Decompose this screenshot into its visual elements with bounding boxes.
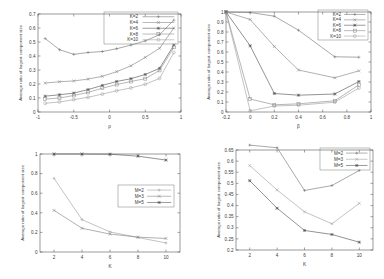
- chart-panel-top-left: -1-0.500.5100.10.20.30.40.50.60.7ρAverag…: [0, 0, 192, 139]
- y-tick-label: 0: [35, 250, 38, 255]
- chart-bottom-right: 2468100.20.250.30.350.40.450.50.550.60.6…: [192, 140, 384, 279]
- x-tick-label: 0: [108, 115, 111, 120]
- legend-label: K=2: [130, 14, 139, 19]
- y-tick-label: 0.45: [225, 192, 234, 197]
- legend-label: M=3: [135, 194, 145, 199]
- chart-top-right: -0.200.20.40.60.8100.10.20.30.40.50.60.7…: [192, 0, 384, 140]
- x-tick-label: 0: [249, 115, 252, 120]
- y-tick-label: 0.8: [31, 171, 38, 176]
- x-tick-label: 1: [180, 115, 183, 120]
- legend: K=2K=4K=6K=8K=10: [318, 10, 368, 40]
- y-tick-label: 0.7: [217, 40, 224, 45]
- y-tick-label: 0.3: [217, 80, 224, 85]
- y-tick-label: 0.8: [217, 30, 224, 35]
- series-M-3: [53, 209, 168, 240]
- y-tick-label: 0.65: [225, 148, 234, 153]
- x-tick-label: 0.8: [344, 115, 351, 120]
- legend: M=2M=3M=5: [320, 148, 370, 170]
- series-K-2: [44, 19, 176, 56]
- y-axis-title: Average ratio of largest component size: [18, 25, 23, 101]
- y-tick-label: 0.4: [31, 211, 38, 216]
- y-tick-label: 0.7: [29, 12, 36, 17]
- y-tick-label: 0.4: [29, 54, 36, 59]
- legend-label: K=8: [333, 28, 342, 33]
- x-axis-title: ρ: [108, 124, 111, 129]
- x-tick-label: 6: [303, 253, 306, 258]
- legend-label: K=8: [130, 32, 139, 37]
- y-tick-label: 0.2: [31, 230, 38, 235]
- legend-label: M=2: [135, 188, 145, 193]
- x-tick-label: 0.2: [271, 115, 278, 120]
- x-tick-label: 0.5: [142, 115, 149, 120]
- legend-label: K=10: [127, 37, 138, 42]
- y-tick-label: 0.4: [227, 203, 234, 208]
- legend-label: M=2: [334, 151, 344, 156]
- y-tick-label: 0.3: [227, 225, 234, 230]
- y-tick-label: 0.6: [31, 191, 38, 196]
- chart-panel-bottom-right: 2468100.20.250.30.350.40.450.50.550.60.6…: [192, 140, 384, 279]
- legend: M=2M=3M=5: [118, 185, 174, 207]
- legend-label: K=6: [130, 26, 139, 31]
- x-tick-label: 4: [81, 255, 84, 260]
- x-tick-label: 4: [276, 253, 279, 258]
- legend-label: K=4: [333, 17, 342, 22]
- x-tick-label: 6: [109, 255, 112, 260]
- y-tick-label: 0.1: [29, 96, 36, 101]
- y-tick-label: 0.25: [225, 237, 234, 242]
- chart-bottom-left: 24681000.20.40.60.81KAverage ratio of la…: [0, 140, 192, 279]
- x-tick-label: 8: [137, 255, 140, 260]
- y-tick-label: 0.9: [217, 20, 224, 25]
- y-tick-label: 0: [33, 110, 36, 115]
- x-axis-title: K: [108, 264, 112, 269]
- y-tick-label: 0.5: [217, 60, 224, 65]
- legend-label: K=4: [130, 20, 139, 25]
- y-tick-label: 0.4: [217, 70, 224, 75]
- y-tick-label: 0.5: [227, 181, 234, 186]
- legend-label: K=2: [333, 12, 342, 17]
- chart-top-left: -1-0.500.5100.10.20.30.40.50.60.7ρAverag…: [0, 0, 192, 140]
- legend-label: M=5: [334, 163, 344, 168]
- x-tick-label: 0.6: [319, 115, 326, 120]
- series-K-4: [44, 27, 176, 85]
- y-tick-label: 0: [221, 110, 224, 115]
- x-tick-label: 2: [248, 253, 251, 258]
- y-axis-title: Average ratio of largest component size: [206, 24, 211, 100]
- x-tick-label: 0.4: [295, 115, 302, 120]
- series-K-6: [44, 44, 176, 98]
- y-tick-label: 1: [35, 152, 38, 157]
- y-tick-label: 0.6: [29, 26, 36, 31]
- x-tick-label: -0.2: [222, 115, 230, 120]
- figure-panel-grid: -1-0.500.5100.10.20.30.40.50.60.7ρAverag…: [0, 0, 384, 279]
- y-tick-label: 0.2: [29, 82, 36, 87]
- x-tick-label: 2: [53, 255, 56, 260]
- plot-frame: [226, 12, 371, 112]
- y-tick-label: 0.2: [227, 248, 234, 253]
- y-tick-label: 0.2: [217, 90, 224, 95]
- y-tick-label: 0.1: [217, 100, 224, 105]
- series-M-3: [248, 164, 361, 225]
- plot-frame: [236, 150, 373, 250]
- x-tick-label: 10: [357, 253, 363, 258]
- y-tick-label: 0.55: [225, 170, 234, 175]
- x-axis-title: β: [297, 124, 300, 129]
- y-tick-label: 0.6: [217, 50, 224, 55]
- y-tick-label: 0.6: [227, 159, 234, 164]
- x-tick-label: 8: [331, 253, 334, 258]
- x-tick-label: -1: [36, 115, 41, 120]
- y-axis-title: Average ratio of largest component size: [216, 162, 221, 238]
- legend-label: M=3: [334, 157, 344, 162]
- x-axis-title: K: [303, 262, 307, 267]
- legend-label: M=5: [135, 200, 145, 205]
- y-axis-title: Average ratio of largest component size: [20, 165, 25, 241]
- plot-frame: [38, 14, 181, 112]
- y-tick-label: 0.3: [29, 68, 36, 73]
- y-tick-label: 0.5: [29, 40, 36, 45]
- legend-label: K=6: [333, 23, 342, 28]
- x-tick-label: 1: [370, 115, 373, 120]
- legend: K=2K=4K=6K=8K=10: [104, 12, 178, 44]
- chart-panel-top-right: -0.200.20.40.60.8100.10.20.30.40.50.60.7…: [192, 0, 384, 139]
- x-tick-label: 10: [163, 255, 169, 260]
- series-K-10: [44, 51, 176, 105]
- legend-label: K=10: [330, 34, 341, 39]
- y-tick-label: 0.35: [225, 214, 234, 219]
